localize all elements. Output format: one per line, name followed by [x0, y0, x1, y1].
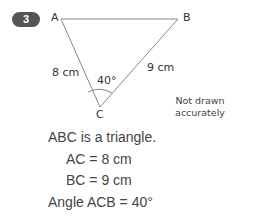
- statement-triangle: ABC is a triangle.: [48, 129, 156, 145]
- note-line-2: accurately: [160, 107, 240, 119]
- side-ac-label: 8 cm: [52, 66, 79, 79]
- vertex-b-label: B: [183, 11, 191, 24]
- vertex-c-label: C: [96, 108, 104, 121]
- angle-arc: [88, 89, 112, 93]
- statement-angle: Angle ACB = 40°: [48, 194, 153, 210]
- note-line-1: Not drawn: [160, 95, 240, 107]
- statement-bc: BC = 9 cm: [66, 172, 132, 188]
- statement-ac: AC = 8 cm: [66, 151, 132, 167]
- side-bc-label: 9 cm: [147, 61, 174, 74]
- angle-c-label: 40°: [97, 74, 117, 87]
- vertex-a-label: A: [51, 11, 59, 24]
- not-drawn-accurately-note: Not drawn accurately: [160, 95, 240, 119]
